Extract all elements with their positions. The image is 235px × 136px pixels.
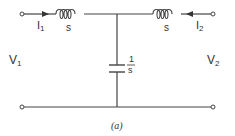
label-v1: V1 [9,53,22,68]
label-i1: I1 [37,19,45,33]
svg-text:s: s [128,65,133,75]
inductor-l1-icon [56,10,75,19]
terminal-bottom-left [20,105,24,109]
circuit-diagram: I1 I2 s s 1 s V1 V2 (a) [0,0,235,136]
current-arrow-i1-icon [42,11,49,17]
label-c1-impedance: 1 s [127,54,135,75]
label-l2-impedance: s [164,22,169,33]
inductor-l2-icon [153,10,172,19]
terminal-bottom-right [211,105,215,109]
svg-text:1: 1 [129,54,134,64]
label-i2: I2 [196,19,204,33]
figure-caption: (a) [111,120,123,132]
current-arrow-i2-icon [186,11,193,17]
label-v2: V2 [207,53,220,68]
terminal-top-left [20,12,24,16]
terminal-top-right [211,12,215,16]
capacitor-c1-icon [109,65,125,72]
label-l1-impedance: s [66,22,71,33]
